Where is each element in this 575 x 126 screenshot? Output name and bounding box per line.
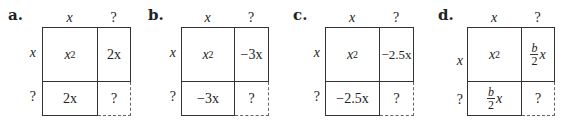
cell-bottom-left: b2x bbox=[468, 82, 522, 116]
col-header-x: x bbox=[181, 10, 234, 26]
panel-a: a. x ? x ? x2 2x 2x ? bbox=[0, 0, 145, 126]
col-header-unknown: ? bbox=[234, 10, 268, 26]
area-model-grid: x2 2x 2x ? bbox=[42, 27, 131, 116]
row-header-x: x bbox=[306, 45, 320, 61]
fraction-b-over-2: b2 bbox=[487, 86, 495, 111]
panel-d: d. x ? x ? x2 b2x b2x ? bbox=[430, 0, 575, 126]
panel-label: c. bbox=[293, 6, 307, 24]
cell-unknown-square: ? bbox=[522, 82, 555, 116]
cell-x-squared: x2 bbox=[182, 28, 235, 82]
row-header-unknown: ? bbox=[22, 89, 36, 105]
panel-label: a. bbox=[8, 6, 23, 24]
col-header-unknown: ? bbox=[521, 10, 554, 26]
panel-label: d. bbox=[438, 6, 454, 24]
cell-unknown-square: ? bbox=[98, 82, 131, 116]
fraction-b-over-2: b2 bbox=[530, 42, 538, 67]
panel-c: c. x ? x ? x2 −2.5x −2.5x ? bbox=[285, 0, 430, 126]
cell-unknown-square: ? bbox=[235, 82, 269, 116]
cell-bottom-left: −3x bbox=[182, 82, 235, 116]
panel-label: b. bbox=[148, 6, 164, 24]
cell-x-squared: x2 bbox=[468, 28, 522, 82]
cell-top-right: 2x bbox=[98, 28, 131, 82]
cell-top-right: b2x bbox=[522, 28, 555, 82]
area-model-grid: x2 b2x b2x ? bbox=[467, 27, 555, 116]
col-header-x: x bbox=[42, 10, 97, 26]
col-header-unknown: ? bbox=[97, 10, 130, 26]
area-model-grid: x2 −3x −3x ? bbox=[181, 27, 269, 116]
row-header-unknown: ? bbox=[162, 89, 176, 105]
cell-top-right: −2.5x bbox=[380, 28, 414, 82]
col-header-x: x bbox=[467, 10, 521, 26]
cell-unknown-square: ? bbox=[380, 82, 414, 116]
col-header-x: x bbox=[325, 10, 379, 26]
row-header-x: x bbox=[162, 45, 176, 61]
cell-bottom-left: −2.5x bbox=[326, 82, 380, 116]
row-header-unknown: ? bbox=[449, 92, 463, 108]
cell-top-right: −3x bbox=[235, 28, 269, 82]
col-header-unknown: ? bbox=[379, 10, 413, 26]
cell-x-squared: x2 bbox=[326, 28, 380, 82]
row-header-x: x bbox=[22, 45, 36, 61]
row-header-unknown: ? bbox=[306, 89, 320, 105]
panel-b: b. x ? x ? x2 −3x −3x ? bbox=[140, 0, 285, 126]
cell-bottom-left: 2x bbox=[43, 82, 98, 116]
area-model-grid: x2 −2.5x −2.5x ? bbox=[325, 27, 414, 116]
cell-x-squared: x2 bbox=[43, 28, 98, 82]
row-header-x: x bbox=[449, 53, 463, 69]
